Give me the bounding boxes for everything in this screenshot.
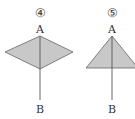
figure-4-label-a: A: [35, 23, 45, 36]
figure-5: ⑤ A B: [86, 6, 135, 116]
rhombus-shape: [5, 36, 73, 69]
figure-5-number: ⑤: [107, 6, 118, 20]
triangle-shape: [86, 36, 135, 68]
figure-4: ④ A B: [5, 6, 73, 116]
figure-4-label-b: B: [36, 103, 44, 116]
figure-5-label-b: B: [108, 103, 116, 116]
figure-4-number: ④: [35, 6, 46, 20]
figure-5-label-a: A: [107, 23, 117, 36]
figures-diagram: ④ A B ⑤ A B: [0, 0, 135, 119]
